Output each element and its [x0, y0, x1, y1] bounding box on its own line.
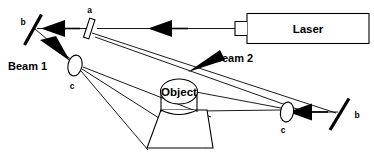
beam-2-path: Beam 2 [92, 33, 336, 113]
lens-right-ellipse [279, 101, 295, 123]
diagram-canvas: Laser a b Be [0, 0, 374, 156]
beam-mirror-to-lens-right [288, 104, 338, 121]
right-ray-horizontal [197, 110, 281, 111]
lens-left-label: c [70, 81, 75, 91]
beam-1-arrowhead [40, 36, 70, 61]
holographic-plate-group [147, 110, 213, 148]
laser-aperture-stub [235, 22, 247, 36]
beam-splitter-label: a [87, 5, 92, 15]
main-horizontal-beam [37, 20, 235, 37]
beam-arrow-laser-segment [148, 20, 172, 37]
optics-diagram: Laser a b Be [0, 0, 374, 156]
right-ray-upper [196, 92, 281, 108]
right-lens-rays [196, 92, 281, 111]
mirror-bottom-right-surface [330, 99, 349, 131]
mirror-top-left-surface [25, 15, 42, 46]
mirror-top-left-group: b [20, 15, 41, 46]
beam-2-label: Beam 2 [214, 52, 253, 64]
object-label: Object [161, 86, 197, 98]
laser-source-group: Laser [235, 14, 369, 44]
beam-arrow-to-mirror-b [41, 20, 65, 37]
left-ray-lower [81, 71, 148, 150]
beam-1-label: Beam 1 [8, 60, 47, 72]
laser-label: Laser [293, 23, 324, 35]
lens-right-label: c [281, 125, 286, 135]
holographic-plate-shape [147, 110, 213, 148]
mirror-top-left-label: b [20, 17, 25, 27]
lens-right-group: c [279, 101, 295, 135]
mirror-bottom-right-label: b [354, 110, 359, 120]
mirror-bottom-right-group: b [330, 99, 360, 131]
beam-2-line-upper [92, 33, 336, 113]
